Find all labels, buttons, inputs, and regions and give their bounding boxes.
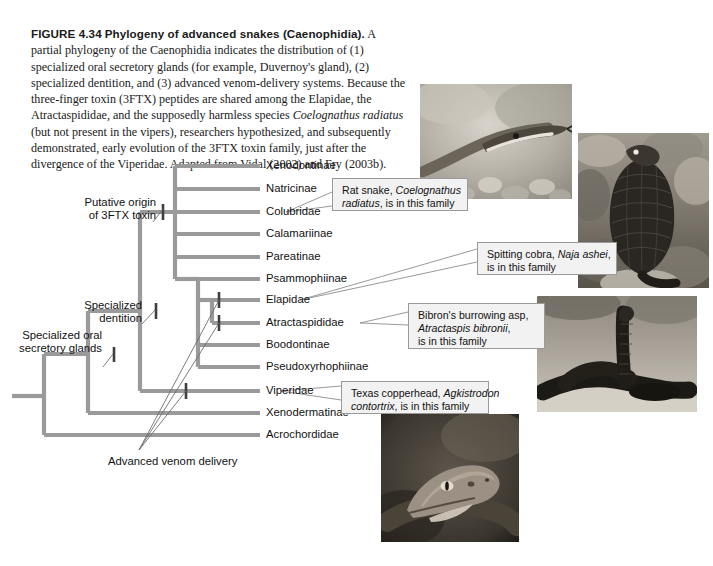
leader-specialized-dentition xyxy=(142,310,155,324)
annotation-oral-glands-line2: secretory glands xyxy=(2,342,102,355)
taxon-calamariinae: Calamariinae xyxy=(266,228,333,239)
callout-rat-snake-line1: Rat snake, Coelognathus xyxy=(342,184,459,197)
copperhead-photo-image xyxy=(381,414,519,542)
taxon-natricinae: Natricinae xyxy=(266,183,317,194)
taxon-pseudoxyrhophiinae: Pseudoxyrhophiinae xyxy=(266,361,368,372)
callout-leader-asp-bottom xyxy=(360,323,408,325)
callout-burrowing-asp-line1: Bibron's burrowing asp, xyxy=(418,309,536,322)
taxon-viperidae: Viperidae xyxy=(266,385,314,396)
taxon-atractaspididae: Atractaspididae xyxy=(266,317,344,328)
figure-container: FIGURE 4.34 Phylogeny of advanced snakes… xyxy=(0,0,713,566)
copperhead-photo xyxy=(381,414,519,542)
callout-texas-copperhead-line2: contortrix, is in this family xyxy=(351,400,480,413)
taxon-pareatinae: Pareatinae xyxy=(266,251,321,262)
taxon-psammophiinae: Psammophiinae xyxy=(266,273,347,284)
taxon-elapidae: Elapidae xyxy=(266,294,310,305)
callout-spitting-cobra-line2: is in this family xyxy=(487,261,608,274)
annotation-advanced-venom-delivery: Advanced venom delivery xyxy=(108,455,237,468)
leader-oral-glands xyxy=(103,354,113,367)
annotation-oral-glands-line1: Specialized oral xyxy=(2,329,102,342)
taxon-xenodontinae: Xenodontinae xyxy=(266,160,336,171)
callout-rat-snake-line2: radiatus, is in this family xyxy=(342,197,459,210)
annotation-putative-origin-line2: of 3FTX toxin xyxy=(60,209,156,222)
leader-venom-atractaspididae xyxy=(139,323,219,450)
taxon-colubridae: Colubridae xyxy=(266,206,321,217)
callout-spitting-cobra-line1: Spitting cobra, Naja ashei, xyxy=(487,248,608,261)
annotation-specialized-dentition: Specialized dentition xyxy=(46,299,142,325)
burrowing-asp-photo xyxy=(537,296,697,412)
callout-burrowing-asp: Bibron's burrowing asp, Atractaspis bibr… xyxy=(408,303,545,349)
callout-spitting-cobra: Spitting cobra, Naja ashei, is in this f… xyxy=(477,242,617,275)
leader-venom-elapidae xyxy=(139,300,219,450)
callout-leader-asp-top xyxy=(360,312,408,323)
annotation-specialized-dentition-line1: Specialized xyxy=(46,299,142,312)
callout-rat-snake: Rat snake, Coelognathus radiatus, is in … xyxy=(332,178,468,211)
annotation-specialized-dentition-line2: dentition xyxy=(46,312,142,325)
callout-texas-copperhead-line1: Texas copperhead, Agkistrodon xyxy=(351,387,480,400)
callout-burrowing-asp-line3: is in this family xyxy=(418,335,536,348)
taxon-acrochordidae: Acrochordidae xyxy=(266,429,339,440)
taxon-boodontinae: Boodontinae xyxy=(266,339,329,350)
annotation-specialized-oral-glands: Specialized oral secretory glands xyxy=(2,329,102,355)
leader-venom-viperidae xyxy=(139,391,186,450)
callout-burrowing-asp-line2: Atractaspis bibronii, xyxy=(418,322,536,335)
burrowing-asp-photo-image xyxy=(537,296,697,412)
annotation-putative-origin-line1: Putative origin xyxy=(60,196,156,209)
taxon-xenodermatinae: Xenodermatinae xyxy=(266,407,349,418)
callout-texas-copperhead: Texas copperhead, Agkistrodon contortrix… xyxy=(341,381,489,414)
annotation-putative-origin: Putative origin of 3FTX toxin xyxy=(60,196,156,222)
